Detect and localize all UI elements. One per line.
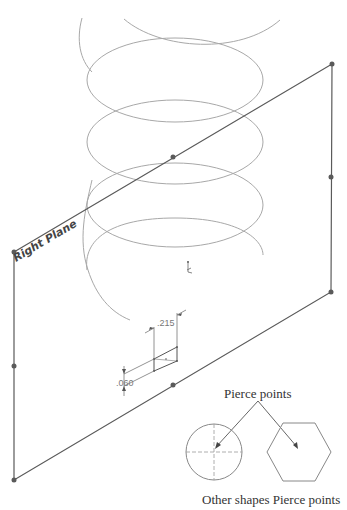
helix-sweep-path[interactable] bbox=[79, 18, 280, 320]
pierce-points-label: Pierce points bbox=[224, 386, 292, 401]
plane-corner-handle[interactable] bbox=[12, 478, 17, 483]
hexagon-shape bbox=[267, 423, 331, 481]
plane-corner-handle[interactable] bbox=[330, 62, 335, 67]
plane-label: Right Plane bbox=[11, 217, 80, 265]
profile-sketch[interactable] bbox=[153, 346, 178, 372]
other-shapes-caption: Other shapes Pierce points bbox=[202, 492, 340, 507]
cad-viewport[interactable]: Right Plane .215 .060 Pierce bbox=[0, 0, 347, 510]
plane-corner-handle[interactable] bbox=[329, 290, 334, 295]
plane-edge-handle[interactable] bbox=[171, 155, 176, 160]
dimension-height-value[interactable]: .060 bbox=[116, 378, 134, 388]
origin-icon bbox=[187, 261, 192, 273]
pierce-points-callout: Pierce points bbox=[215, 386, 298, 449]
plane-edge-handle[interactable] bbox=[12, 364, 17, 369]
dimension-width[interactable]: .215 bbox=[145, 310, 186, 359]
dimension-width-value[interactable]: .215 bbox=[157, 318, 175, 328]
plane-edge-handle[interactable] bbox=[329, 175, 334, 180]
dimension-height[interactable]: .060 bbox=[116, 359, 154, 396]
plane-edge-handle[interactable] bbox=[171, 383, 176, 388]
circle-shape bbox=[186, 424, 242, 480]
right-plane[interactable]: Right Plane bbox=[11, 62, 335, 483]
